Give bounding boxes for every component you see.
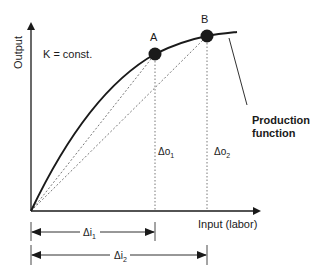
point-b [201, 30, 214, 43]
curve-label-pointer [229, 38, 247, 105]
y-axis-label: Output [12, 36, 24, 69]
point-a-label: A [150, 31, 158, 43]
point-a [149, 48, 162, 61]
ray-origin-to-b [31, 36, 207, 211]
constant-capital-annotation: K = const. [43, 48, 92, 60]
ray-origin-to-a [31, 54, 155, 211]
production-function-diagram: Output Input (labor) K = const. A B Prod… [0, 0, 320, 275]
point-b-label: B [201, 13, 208, 25]
curve-label-line2: function [252, 127, 296, 139]
x-axis-label: Input (labor) [198, 218, 257, 230]
delta-input-1-label: Δi1 [83, 227, 96, 240]
delta-output-2-label: Δo2 [214, 146, 230, 159]
delta-input-2-label: Δi2 [114, 250, 127, 263]
delta-output-1-label: Δo1 [158, 146, 174, 159]
curve-label-line1: Production [252, 114, 310, 126]
